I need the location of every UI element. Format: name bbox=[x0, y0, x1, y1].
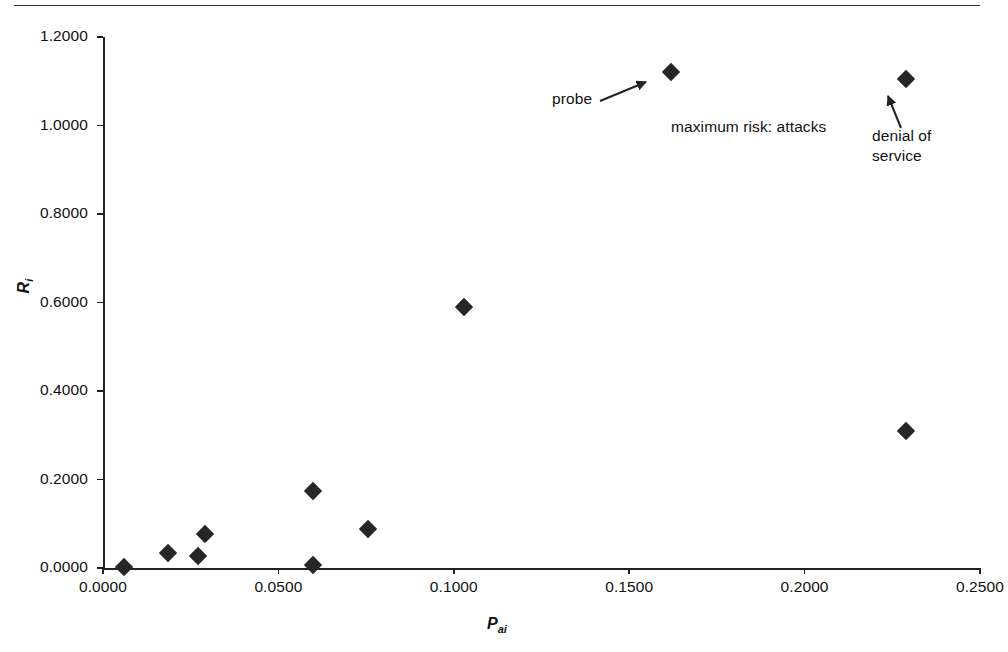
annotation-arrow-probe bbox=[0, 0, 994, 652]
scatter-plot: 0.00000.20000.40000.60000.80001.00001.20… bbox=[0, 0, 994, 652]
